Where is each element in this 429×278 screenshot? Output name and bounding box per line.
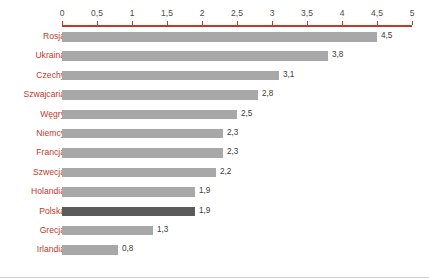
bar-value-label: 3,1 (283, 70, 294, 79)
bar (62, 187, 195, 197)
category-label: Rosja (0, 31, 65, 41)
chart-row: Holandia1,9 (0, 183, 429, 202)
category-label: Czechy (0, 70, 65, 80)
x-axis-line (62, 25, 412, 27)
x-axis-tick-mark (62, 21, 63, 25)
bar-value-label: 2,2 (220, 167, 231, 176)
chart-row: Niemcy2,3 (0, 125, 429, 144)
x-axis-tick-label: 2 (200, 8, 205, 18)
chart-row: Francja2,3 (0, 144, 429, 163)
x-axis-tick-label: 4 (340, 8, 345, 18)
bar (62, 168, 216, 178)
bar-value-label: 0,8 (122, 244, 133, 253)
bar (62, 90, 258, 100)
x-axis-tick-label: 3,5 (301, 8, 313, 18)
x-axis-tick-mark (202, 21, 203, 25)
bar-value-label: 1,3 (157, 225, 168, 234)
bar (62, 51, 328, 61)
category-label: Niemcy (0, 128, 65, 138)
x-axis-tick-label: 0 (60, 8, 65, 18)
category-label: Francja (0, 147, 65, 157)
chart-row: Grecja1,3 (0, 222, 429, 241)
bar (62, 110, 237, 120)
chart-row: Ukraina3,8 (0, 47, 429, 66)
category-label: Szwajcaria (0, 89, 65, 99)
bar-value-label: 2,3 (227, 128, 238, 137)
category-label: Grecja (0, 225, 65, 235)
x-axis-tick-label: 5 (410, 8, 415, 18)
x-axis: 00,511,522,533,544,55 (0, 0, 429, 28)
bar-value-label: 1,9 (199, 186, 210, 195)
category-label: Irlandia (0, 244, 65, 254)
chart-row: Irlandia0,8 (0, 241, 429, 260)
bar (62, 129, 223, 139)
x-axis-tick-mark (412, 21, 413, 25)
x-axis-tick-label: 1,5 (161, 8, 173, 18)
x-axis-tick-mark (377, 21, 378, 25)
x-axis-tick-mark (272, 21, 273, 25)
chart-row: Czechy3,1 (0, 67, 429, 86)
bar (62, 32, 377, 42)
x-axis-tick-mark (307, 21, 308, 25)
chart-plot-area: Rosja4,5Ukraina3,8Czechy3,1Szwajcaria2,8… (0, 28, 429, 268)
x-axis-tick-label: 0,5 (91, 8, 103, 18)
x-axis-tick-mark (167, 21, 168, 25)
x-axis-tick-label: 3 (270, 8, 275, 18)
bar-value-label: 4,5 (381, 31, 392, 40)
x-axis-tick-label: 2,5 (231, 8, 243, 18)
chart-row: Szwajcaria2,8 (0, 86, 429, 105)
category-label: Ukraina (0, 50, 65, 60)
x-axis-tick-label: 4,5 (371, 8, 383, 18)
category-label: Węgry (0, 109, 65, 119)
x-axis-tick-mark (97, 21, 98, 25)
x-axis-tick-mark (237, 21, 238, 25)
bar-value-label: 1,9 (199, 206, 210, 215)
bar-chart: 00,511,522,533,544,55 Rosja4,5Ukraina3,8… (0, 0, 429, 278)
category-label: Szwecja (0, 167, 65, 177)
x-axis-tick-mark (132, 21, 133, 25)
chart-row: Rosja4,5 (0, 28, 429, 47)
bar (62, 148, 223, 158)
category-label: Holandia (0, 186, 65, 196)
chart-row: Węgry2,5 (0, 106, 429, 125)
x-axis-tick-label: 1 (130, 8, 135, 18)
bar (62, 245, 118, 255)
bar-value-label: 2,8 (262, 89, 273, 98)
bar-value-label: 2,5 (241, 109, 252, 118)
chart-row: Polska1,9 (0, 203, 429, 222)
x-axis-tick-mark (342, 21, 343, 25)
category-label: Polska (0, 206, 65, 216)
bar (62, 207, 195, 217)
bar (62, 226, 153, 236)
bar-value-label: 2,3 (227, 147, 238, 156)
chart-row: Szwecja2,2 (0, 164, 429, 183)
bar-value-label: 3,8 (332, 50, 343, 59)
bar (62, 71, 279, 81)
